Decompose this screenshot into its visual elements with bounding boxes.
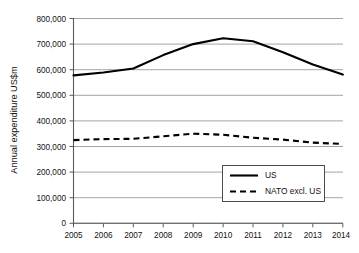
y-tick-label: 500,000 [36, 91, 66, 100]
x-tick-label: 2011 [244, 231, 262, 240]
x-tick-label: 2013 [304, 231, 323, 240]
y-tick-label: 100,000 [36, 194, 66, 203]
y-tick-label: 800,000 [36, 15, 66, 24]
y-axis-title: Annual expenditure US$m [9, 66, 19, 174]
x-tick-label: 2012 [274, 231, 293, 240]
y-tick-label: 600,000 [36, 66, 66, 75]
line-chart: 800,000 700,000 600,000 500,000 400,000 … [0, 0, 359, 253]
legend[interactable]: US NATO excl. US [223, 166, 325, 202]
legend-label-us: US [265, 170, 277, 180]
x-tick-label: 2009 [184, 231, 203, 240]
legend-label-nato-excl-us: NATO excl. US [265, 186, 321, 196]
x-tick-label: 2014 [332, 231, 351, 240]
y-tick-label: 400,000 [36, 117, 66, 126]
x-tick-label: 2008 [154, 231, 173, 240]
chart-canvas: 800,000 700,000 600,000 500,000 400,000 … [0, 0, 359, 253]
x-tick-label: 2005 [64, 231, 83, 240]
chart-background [0, 0, 359, 253]
x-tick-label: 2006 [94, 231, 113, 240]
x-tick-label: 2010 [214, 231, 233, 240]
y-tick-label: 200,000 [36, 168, 66, 177]
y-tick-label: 300,000 [36, 143, 66, 152]
y-tick-label: 700,000 [36, 40, 66, 49]
x-tick-label: 2007 [124, 231, 143, 240]
y-tick-label: 0 [61, 219, 66, 228]
y-axis-tick-labels: 800,000 700,000 600,000 500,000 400,000 … [36, 15, 66, 229]
